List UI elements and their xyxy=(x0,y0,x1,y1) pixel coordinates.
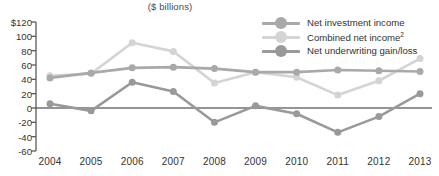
chart-container: ($ billions) Net investment income Combi… xyxy=(0,0,439,176)
series-point xyxy=(417,68,424,75)
series-point xyxy=(334,67,341,74)
series-point xyxy=(375,113,382,120)
x-axis-tick-label: 2011 xyxy=(327,156,349,167)
x-axis-tick-label: 2012 xyxy=(367,156,390,167)
x-axis-tick-label: 2009 xyxy=(244,156,267,167)
y-axis-tick-label: -20 xyxy=(18,117,32,128)
series-point xyxy=(211,119,218,126)
series-point xyxy=(88,69,95,76)
series-point xyxy=(417,90,424,97)
y-axis-tick-label: -40 xyxy=(18,131,32,142)
x-axis-tick-label: 2008 xyxy=(203,156,226,167)
series-line xyxy=(50,82,420,132)
y-axis-tick-label: 100 xyxy=(16,31,32,42)
x-axis-tick-label: 2005 xyxy=(80,156,103,167)
chart-subtitle: ($ billions) xyxy=(0,1,340,12)
x-axis-tick-label: 2006 xyxy=(121,156,144,167)
series-point xyxy=(334,129,341,136)
y-axis-tick-label: -60 xyxy=(18,146,32,157)
series-point xyxy=(211,79,218,86)
series-point xyxy=(129,39,136,46)
series-point xyxy=(170,88,177,95)
y-axis-tick-label: 80 xyxy=(21,45,32,56)
y-axis-tick-label: 20 xyxy=(21,88,32,99)
x-axis-tick-labels: 2004200520062007200820092010201120122013 xyxy=(36,156,432,172)
series-point xyxy=(47,100,54,107)
series-point xyxy=(293,110,300,117)
y-axis-tick-label: $120 xyxy=(11,17,32,28)
y-axis-tick-label: 40 xyxy=(21,74,32,85)
x-axis-tick-label: 2010 xyxy=(285,156,308,167)
series-point xyxy=(88,107,95,114)
series-point xyxy=(47,74,54,81)
x-axis-tick-label: 2007 xyxy=(162,156,185,167)
x-axis-tick-label: 2004 xyxy=(38,156,61,167)
series-point xyxy=(334,92,341,99)
plot-area xyxy=(36,22,432,151)
y-axis-tick-label: 60 xyxy=(21,60,32,71)
series-point xyxy=(375,67,382,74)
series-point xyxy=(211,65,218,72)
chart-svg xyxy=(36,22,432,151)
series-point xyxy=(293,69,300,76)
series-point xyxy=(417,55,424,62)
y-axis-tick-labels: $120100806040200-20-40-60 xyxy=(0,22,32,151)
series-point xyxy=(129,79,136,86)
series-line xyxy=(50,43,420,95)
series-point xyxy=(129,64,136,71)
series-point xyxy=(170,64,177,71)
series-point xyxy=(170,48,177,55)
series-point xyxy=(252,69,259,76)
x-axis-tick-label: 2013 xyxy=(408,156,431,167)
series-point xyxy=(375,77,382,84)
series-point xyxy=(252,102,259,109)
